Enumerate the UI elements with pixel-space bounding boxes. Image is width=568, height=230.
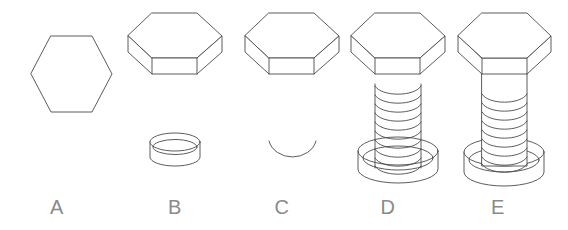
washer-d (358, 137, 438, 183)
hex-head-c (245, 13, 339, 74)
figure-label-e: E (478, 196, 518, 219)
hex-head-d (351, 13, 445, 74)
washer-arc-c (269, 141, 316, 157)
figure-d-head-threads-washer (351, 13, 445, 183)
figure-e-complete-bolt (458, 13, 551, 186)
washer-b (150, 133, 200, 166)
figure-a-hexagon (31, 36, 112, 112)
diagram-canvas: A B C D E (0, 0, 568, 230)
figure-label-c: C (262, 196, 302, 219)
figure-label-a: A (37, 196, 77, 219)
hex-head-e (458, 13, 551, 74)
threaded-shaft-d (375, 84, 421, 174)
hex-head-b (128, 13, 222, 74)
figure-label-b: B (155, 196, 195, 219)
figure-c-head-and-arc (245, 13, 339, 157)
figure-label-d: D (368, 196, 408, 219)
figure-b-head-and-washer (128, 13, 222, 166)
